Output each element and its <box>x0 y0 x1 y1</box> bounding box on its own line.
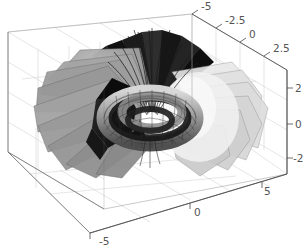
x-tick-label-5: 5 <box>264 185 271 197</box>
axis-z-vertical: 2 0 -2 <box>287 70 303 174</box>
y-tick-label-neg2_5: -2.5 <box>225 14 246 26</box>
y-tick-label-neg5: -5 <box>201 0 211 12</box>
y-tick-label-2_5: 2.5 <box>273 42 290 54</box>
x-tick-label-neg5: -5 <box>99 235 109 247</box>
z-tick-label-0: 0 <box>295 118 302 130</box>
z-tick-label-2: 2 <box>295 82 302 94</box>
axis-x-bottom: -5 0 5 <box>90 174 287 247</box>
x-tick-label-0: 0 <box>194 206 201 218</box>
z-tick-label-neg2: -2 <box>293 152 303 164</box>
y-tick-label-0: 0 <box>249 28 256 40</box>
plot-3d-container: -5 -2.5 0 2.5 2 0 -2 -5 0 5 <box>0 0 307 250</box>
plot-3d-canvas: -5 -2.5 0 2.5 2 0 -2 -5 0 5 <box>0 0 307 250</box>
